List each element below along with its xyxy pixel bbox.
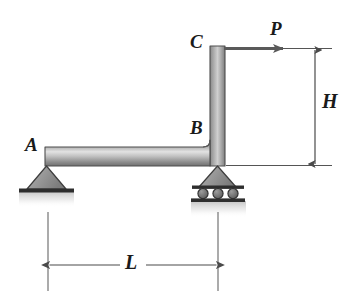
dimension-h [226,49,332,166]
support-a-triangle [27,166,66,189]
beam-ab [45,140,210,166]
label-point-b: B [190,118,203,137]
label-point-a: A [25,135,38,154]
diagram-svg [0,0,355,305]
roller-3 [228,189,238,199]
roller-2 [213,189,223,199]
label-dim-height: H [322,91,338,111]
support-b-lower-rail [191,198,245,202]
support-a-ground-line [19,189,74,193]
column-bc [210,46,225,166]
bent-member [45,46,225,166]
label-dim-length: L [125,252,137,272]
label-point-c: C [190,32,203,51]
support-roller-b [191,166,245,202]
support-pin-a [19,166,74,193]
label-load-p: P [270,19,282,38]
roller-1 [198,189,208,199]
figure-canvas: C P B A H L [0,0,355,305]
support-b-triangle [199,166,236,187]
support-a-shadow [19,191,74,207]
